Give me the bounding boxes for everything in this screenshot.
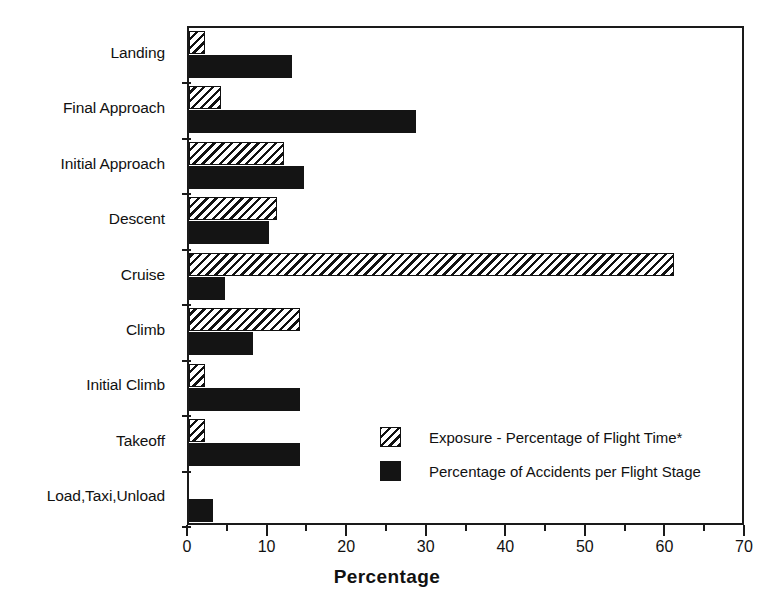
y-axis-label: Initial Climb [0, 376, 165, 394]
bar-exposure [189, 419, 205, 442]
y-axis-label: Final Approach [0, 99, 165, 117]
x-axis-tick-label: 70 [735, 538, 753, 556]
x-axis-tick-label: 40 [496, 538, 514, 556]
y-axis-label: Takeoff [0, 432, 165, 450]
bar-exposure [189, 86, 221, 109]
x-axis-major-tick [425, 525, 427, 536]
x-axis-minor-tick [624, 525, 626, 531]
y-axis-label: Load,Taxi,Unload [0, 487, 165, 505]
y-axis-tick [182, 138, 191, 140]
legend-label-accidents: Percentage of Accidents per Flight Stage [429, 463, 701, 480]
legend-item-accidents: Percentage of Accidents per Flight Stage [380, 454, 730, 488]
bar-chart: LandingFinal ApproachInitial ApproachDes… [0, 0, 774, 606]
x-axis-major-tick [266, 525, 268, 536]
bar-exposure [189, 142, 284, 165]
legend: Exposure - Percentage of Flight Time* Pe… [380, 420, 730, 488]
x-axis-major-tick [743, 525, 745, 536]
x-axis-minor-tick [465, 525, 467, 531]
x-axis-ticks [187, 525, 744, 537]
x-axis-tick-label: 60 [656, 538, 674, 556]
bar-exposure [189, 31, 205, 54]
x-axis-tick-label: 20 [337, 538, 355, 556]
y-axis-label: Cruise [0, 266, 165, 284]
x-axis-tick-label: 50 [576, 538, 594, 556]
y-axis-tick [182, 193, 191, 195]
y-axis-tick [182, 471, 191, 473]
bar-accidents [189, 499, 213, 522]
x-axis-tick-label: 0 [183, 538, 192, 556]
y-axis-tick [182, 82, 191, 84]
black-swatch-icon [380, 461, 401, 481]
bar-accidents [189, 388, 300, 411]
y-axis-tick [182, 304, 191, 306]
x-axis-major-tick [504, 525, 506, 536]
legend-label-exposure: Exposure - Percentage of Flight Time* [429, 429, 682, 446]
x-axis-major-tick [584, 525, 586, 536]
hatched-swatch-icon [380, 427, 401, 447]
bar-exposure [189, 364, 205, 387]
x-axis-tick-label: 30 [417, 538, 435, 556]
x-axis-major-tick [663, 525, 665, 536]
legend-item-exposure: Exposure - Percentage of Flight Time* [380, 420, 730, 454]
y-axis-label: Initial Approach [0, 155, 165, 173]
plot-area: Exposure - Percentage of Flight Time* Pe… [187, 26, 744, 525]
bar-accidents [189, 221, 269, 244]
y-axis-label: Climb [0, 321, 165, 339]
x-axis-minor-tick [703, 525, 705, 531]
y-axis-tick [182, 415, 191, 417]
bar-accidents [189, 110, 416, 133]
bar-exposure [189, 253, 674, 276]
x-axis-major-tick [345, 525, 347, 536]
y-axis-label: Landing [0, 44, 165, 62]
y-axis-label: Descent [0, 210, 165, 228]
x-axis-tick-label: 10 [258, 538, 276, 556]
bar-accidents [189, 277, 225, 300]
x-axis-minor-tick [544, 525, 546, 531]
x-axis-major-tick [186, 525, 188, 536]
bar-accidents [189, 332, 253, 355]
x-axis-minor-tick [305, 525, 307, 531]
y-axis-tick [182, 360, 191, 362]
bar-accidents [189, 55, 292, 78]
bar-exposure [189, 308, 300, 331]
x-axis-title: Percentage [0, 566, 774, 588]
bar-exposure [189, 197, 277, 220]
x-axis-minor-tick [385, 525, 387, 531]
bar-accidents [189, 443, 300, 466]
y-axis-tick [182, 249, 191, 251]
x-axis-minor-tick [226, 525, 228, 531]
bar-accidents [189, 166, 304, 189]
